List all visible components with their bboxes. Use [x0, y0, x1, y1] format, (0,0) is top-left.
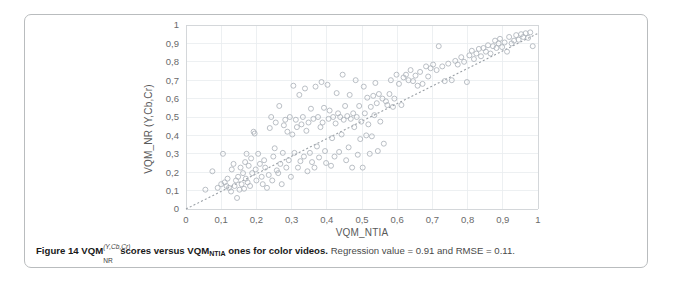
data-point	[440, 64, 445, 69]
data-point	[340, 72, 345, 77]
data-point	[307, 150, 312, 155]
chart-canvas: 00,10,20,30,40,50,60,70,80,91 00,10,20,3…	[24, 14, 648, 242]
data-point	[365, 95, 370, 100]
caption-superscript: (Y,Cb,Cr)	[103, 243, 130, 251]
y-tick-label: 0,2	[166, 167, 179, 178]
data-point	[371, 93, 376, 98]
data-point	[305, 169, 310, 174]
data-point	[493, 38, 498, 43]
data-point	[266, 172, 271, 177]
data-point	[355, 152, 360, 157]
data-point	[297, 92, 302, 97]
data-point	[210, 169, 215, 174]
data-point	[259, 174, 264, 179]
x-tick-label: 0,8	[461, 214, 474, 225]
data-point	[225, 176, 230, 181]
data-point	[408, 68, 413, 73]
data-point	[434, 68, 439, 73]
data-point	[418, 69, 423, 74]
data-point	[455, 62, 460, 67]
data-point	[339, 132, 344, 137]
data-point	[329, 163, 334, 168]
data-point	[343, 103, 348, 108]
y-axis-title: VQM_NR (Y,Cb,Cr)	[143, 84, 154, 174]
y-tick-label: 0,1	[166, 185, 179, 196]
data-point	[478, 54, 483, 59]
data-point	[310, 160, 315, 165]
x-tick-label: 0	[183, 214, 188, 225]
data-point	[285, 129, 290, 134]
data-point	[292, 150, 297, 155]
data-point	[325, 82, 330, 87]
y-tick-label: 0,9	[166, 38, 179, 49]
x-tick-label: 1	[535, 214, 540, 225]
data-point	[279, 182, 284, 187]
data-point	[345, 114, 350, 119]
scatter-chart: 00,10,20,30,40,50,60,70,80,91 00,10,20,3…	[24, 14, 648, 242]
gridlines	[186, 25, 538, 209]
data-point	[317, 155, 322, 160]
data-point	[362, 111, 367, 116]
data-point	[286, 158, 291, 163]
caption-bold-tail: ones for color videos.	[228, 245, 328, 256]
data-point	[312, 165, 317, 170]
data-point	[426, 74, 431, 79]
data-point	[249, 156, 254, 161]
x-tick-label: 0,6	[391, 214, 404, 225]
data-point	[431, 62, 436, 67]
data-point	[324, 161, 329, 166]
data-point	[270, 178, 275, 183]
x-tick-label: 0,4	[320, 214, 333, 225]
data-point	[374, 101, 379, 106]
data-point	[239, 182, 244, 187]
data-point	[203, 187, 208, 192]
data-point	[334, 91, 339, 96]
data-point	[474, 51, 479, 56]
data-point	[273, 120, 278, 125]
data-point	[327, 108, 332, 113]
data-point	[369, 134, 374, 139]
y-tick-label: 1	[174, 19, 179, 30]
data-point	[237, 187, 242, 192]
caption-bold-middle: scores versus VQM	[120, 245, 209, 256]
x-tick-label: 0,9	[496, 214, 509, 225]
data-point	[387, 92, 392, 97]
data-point	[346, 145, 351, 150]
y-tick-label: 0,4	[166, 130, 179, 141]
data-point	[500, 45, 505, 50]
data-point	[507, 34, 512, 39]
data-point	[376, 92, 381, 97]
x-tick-label: 0,7	[426, 214, 439, 225]
data-point	[399, 103, 404, 108]
data-point	[271, 154, 276, 159]
y-tick-label: 0,3	[166, 148, 179, 159]
caption-bold-middle-sub: NTIA	[209, 250, 225, 257]
x-tick-labels: 00,10,20,30,40,50,60,70,80,91	[183, 214, 540, 225]
data-point	[229, 167, 234, 172]
data-point	[320, 120, 325, 125]
data-point	[375, 149, 380, 154]
x-tick-label: 0,3	[285, 214, 298, 225]
x-tick-label: 0,5	[355, 214, 368, 225]
data-point	[272, 146, 277, 151]
data-point	[332, 154, 337, 159]
data-point	[299, 122, 304, 127]
data-point	[476, 46, 481, 51]
data-point	[481, 46, 486, 51]
data-point	[264, 185, 269, 190]
data-point	[415, 83, 420, 88]
y-tick-label: 0,6	[166, 93, 179, 104]
data-point	[368, 104, 373, 109]
data-point	[436, 44, 441, 49]
x-tick-label: 0,2	[250, 214, 263, 225]
data-point	[411, 79, 416, 84]
y-tick-label: 0,8	[166, 56, 179, 67]
data-point	[378, 119, 383, 124]
data-point	[514, 33, 519, 38]
data-point	[306, 120, 311, 125]
figure-caption: Figure 14 VQM(Y,Cb,Cr)NRscores versus VQ…	[36, 245, 640, 259]
data-point	[231, 161, 236, 166]
data-point	[373, 80, 378, 85]
x-tick-label: 0,1	[215, 214, 228, 225]
data-point	[523, 31, 528, 36]
